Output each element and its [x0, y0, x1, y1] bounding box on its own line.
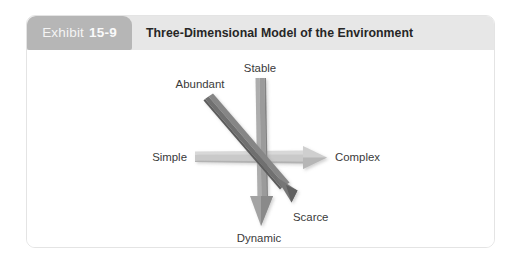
figure-label-scarce: Scarce [293, 211, 328, 223]
figure-label-dynamic: Dynamic [237, 232, 282, 244]
figure-label-simple: Simple [152, 151, 187, 163]
exhibit-body: Stable Abundant Simple Complex Scarce Dy… [27, 50, 495, 248]
figure-label-stable: Stable [244, 62, 276, 74]
exhibit-tag-number: 15-9 [89, 25, 117, 40]
figure-label-abundant: Abundant [176, 78, 226, 90]
exhibit-tag-word: Exhibit [42, 25, 84, 40]
figure-label-complex: Complex [335, 151, 380, 163]
arrow-abundant-to-scarce [204, 94, 298, 203]
exhibit-header: Exhibit 15-9 Three-Dimensional Model of … [27, 16, 495, 50]
exhibit-title: Three-Dimensional Model of the Environme… [146, 16, 413, 50]
exhibit-card: Exhibit 15-9 Three-Dimensional Model of … [26, 15, 495, 248]
three-dimensional-model-figure: Stable Abundant Simple Complex Scarce Dy… [27, 50, 495, 248]
exhibit-number-tag: Exhibit 15-9 [27, 16, 132, 50]
figure-svg: Stable Abundant Simple Complex Scarce Dy… [27, 50, 495, 248]
